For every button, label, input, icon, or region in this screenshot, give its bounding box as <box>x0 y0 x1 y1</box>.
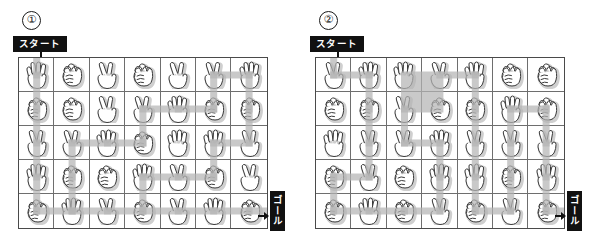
grid-cell[interactable] <box>316 58 351 92</box>
grid-cell[interactable] <box>422 126 457 160</box>
right-arrow-icon <box>555 206 566 214</box>
grid-cell[interactable] <box>161 160 196 194</box>
rock-hand-icon <box>497 163 524 191</box>
grid-cell[interactable] <box>196 126 231 160</box>
scissors-hand-icon <box>129 95 156 123</box>
grid-cell[interactable] <box>90 58 125 92</box>
panel-number: ① <box>22 11 41 30</box>
grid-cell[interactable] <box>54 194 89 228</box>
grid-cell[interactable] <box>458 58 493 92</box>
grid-cell[interactable] <box>161 194 196 228</box>
grid-cell[interactable] <box>231 126 266 160</box>
grid-cell[interactable] <box>231 92 266 126</box>
grid-cell[interactable] <box>90 160 125 194</box>
grid-cell[interactable] <box>387 194 422 228</box>
grid-cell[interactable] <box>528 58 563 92</box>
grid-cell[interactable] <box>196 92 231 126</box>
grid-cell[interactable] <box>493 194 528 228</box>
grid-cell[interactable] <box>125 194 160 228</box>
grid-cell[interactable] <box>422 92 457 126</box>
rock-hand-icon <box>129 197 156 225</box>
grid-cell[interactable] <box>422 58 457 92</box>
scissors-hand-icon <box>497 129 524 157</box>
grid-cell[interactable] <box>351 160 386 194</box>
grid-cell[interactable] <box>493 58 528 92</box>
puzzle-panel-2: ②スタートゴール <box>297 0 587 251</box>
grid-cell[interactable] <box>316 92 351 126</box>
grid-cell[interactable] <box>387 92 422 126</box>
rock-hand-icon <box>533 95 560 123</box>
scissors-hand-icon <box>355 129 382 157</box>
grid-cell[interactable] <box>125 126 160 160</box>
grid-cell[interactable] <box>125 160 160 194</box>
grid-cell[interactable] <box>316 126 351 160</box>
scissors-hand-icon <box>200 61 227 89</box>
paper-hand-icon <box>426 163 453 191</box>
grid-cell[interactable] <box>196 58 231 92</box>
paper-hand-icon <box>355 61 382 89</box>
maze-grid-wrapper <box>315 57 565 229</box>
grid-cell[interactable] <box>196 194 231 228</box>
grid-cell[interactable] <box>351 58 386 92</box>
grid-cell[interactable] <box>196 160 231 194</box>
paper-hand-icon <box>461 163 488 191</box>
grid-cell[interactable] <box>125 58 160 92</box>
grid-cell[interactable] <box>90 194 125 228</box>
grid-cell[interactable] <box>528 126 563 160</box>
scissors-hand-icon <box>93 197 120 225</box>
grid-cell[interactable] <box>458 92 493 126</box>
grid-cell[interactable] <box>19 194 54 228</box>
rock-hand-icon <box>320 163 347 191</box>
grid-cell[interactable] <box>90 126 125 160</box>
grid-cell[interactable] <box>493 126 528 160</box>
grid-cell[interactable] <box>422 194 457 228</box>
maze-grid-wrapper <box>18 57 268 229</box>
grid-cell[interactable] <box>458 194 493 228</box>
scissors-hand-icon <box>236 163 263 191</box>
scissors-hand-icon <box>23 129 50 157</box>
grid-cell[interactable] <box>316 160 351 194</box>
grid-cell[interactable] <box>316 194 351 228</box>
grid-cell[interactable] <box>493 92 528 126</box>
grid-cell[interactable] <box>458 126 493 160</box>
grid-cell[interactable] <box>231 58 266 92</box>
grid-cell[interactable] <box>351 92 386 126</box>
grid-cell[interactable] <box>351 194 386 228</box>
grid-cell[interactable] <box>54 126 89 160</box>
grid-cell[interactable] <box>161 92 196 126</box>
paper-hand-icon <box>236 61 263 89</box>
grid-cell[interactable] <box>351 126 386 160</box>
scissors-hand-icon <box>533 129 560 157</box>
grid-cell[interactable] <box>54 160 89 194</box>
grid-cell[interactable] <box>19 58 54 92</box>
grid-cell[interactable] <box>387 160 422 194</box>
grid-cell[interactable] <box>125 92 160 126</box>
grid-cell[interactable] <box>161 58 196 92</box>
rock-hand-icon <box>93 163 120 191</box>
grid-cell[interactable] <box>458 160 493 194</box>
grid-cell[interactable] <box>90 92 125 126</box>
grid-cell[interactable] <box>493 160 528 194</box>
grid-cell[interactable] <box>19 160 54 194</box>
grid-cell[interactable] <box>231 160 266 194</box>
grid-cell[interactable] <box>54 92 89 126</box>
paper-hand-icon <box>164 129 191 157</box>
grid-cell[interactable] <box>161 126 196 160</box>
scissors-hand-icon <box>426 197 453 225</box>
grid-cell[interactable] <box>387 126 422 160</box>
paper-hand-icon <box>355 197 382 225</box>
grid-cell[interactable] <box>54 58 89 92</box>
grid-cell[interactable] <box>422 160 457 194</box>
paper-hand-icon <box>320 129 347 157</box>
grid-cell[interactable] <box>387 58 422 92</box>
paper-hand-icon <box>93 129 120 157</box>
scissors-hand-icon <box>497 197 524 225</box>
grid-cell[interactable] <box>528 92 563 126</box>
grid-cell[interactable] <box>19 92 54 126</box>
paper-hand-icon <box>200 129 227 157</box>
rock-hand-icon <box>461 95 488 123</box>
grid-cell[interactable] <box>19 126 54 160</box>
grid-cell[interactable] <box>528 160 563 194</box>
rock-hand-icon <box>497 61 524 89</box>
rock-hand-icon <box>58 163 85 191</box>
